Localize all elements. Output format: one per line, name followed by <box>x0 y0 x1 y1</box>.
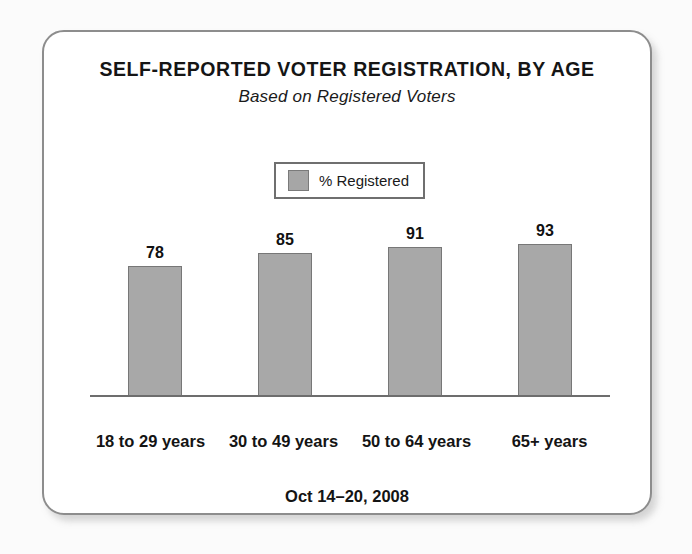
bar-group: 78 85 91 93 <box>90 167 610 397</box>
chart-card: SELF-REPORTED VOTER REGISTRATION, BY AGE… <box>42 30 652 515</box>
bar-value-label: 85 <box>276 232 294 248</box>
bar-slot-50-to-64: 91 <box>350 167 480 397</box>
x-tick-label-50-to-64: 50 to 64 years <box>350 432 483 451</box>
chart-subtitle: Based on Registered Voters <box>44 87 650 107</box>
chart-footnote-date: Oct 14–20, 2008 <box>44 487 650 506</box>
bar-value-label: 93 <box>536 223 554 239</box>
bar-slot-65-plus: 93 <box>480 167 610 397</box>
bar-rect <box>128 266 182 397</box>
x-tick-label-30-to-49: 30 to 49 years <box>217 432 350 451</box>
chart-title: SELF-REPORTED VOTER REGISTRATION, BY AGE <box>44 58 650 81</box>
x-tick-label-65-plus: 65+ years <box>483 432 616 451</box>
bar-rect <box>518 244 572 397</box>
bar-value-label: 91 <box>406 226 424 242</box>
title-block: SELF-REPORTED VOTER REGISTRATION, BY AGE… <box>44 58 650 107</box>
plot-area: 78 85 91 93 <box>90 167 610 397</box>
x-axis-line <box>90 395 610 398</box>
bar-rect <box>388 247 442 397</box>
bar-value-label: 78 <box>146 245 164 261</box>
bar-rect <box>258 253 312 397</box>
bar-slot-18-to-29: 78 <box>90 167 220 397</box>
x-axis-tick-labels: 18 to 29 years 30 to 49 years 50 to 64 y… <box>84 432 616 451</box>
x-tick-label-18-to-29: 18 to 29 years <box>84 432 217 451</box>
bar-slot-30-to-49: 85 <box>220 167 350 397</box>
